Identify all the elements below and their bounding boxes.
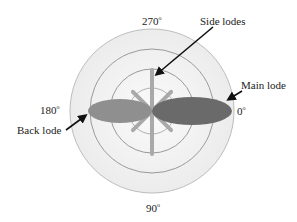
back-lobe-label: Back lode [17, 125, 61, 136]
main-lobe-label: Main lode [241, 80, 286, 91]
angle-label-180: 180o [40, 105, 60, 116]
angle-label-270: 270o [142, 16, 162, 27]
side-lobes-label: Side lodes [200, 16, 246, 27]
angle-label-90: 90o [146, 203, 160, 214]
angle-label-0: 0o [237, 106, 246, 117]
main-lobe [152, 97, 232, 125]
back-lobe [88, 99, 152, 123]
